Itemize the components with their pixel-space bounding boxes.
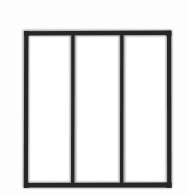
corner-bottom-right bbox=[166, 183, 172, 189]
right-stile-stroke bbox=[167, 31, 171, 188]
bottom-rail-stroke bbox=[24, 183, 172, 188]
corner-bottom-left bbox=[24, 183, 29, 189]
panel-1 bbox=[27, 34, 72, 184]
divider-right-stroke bbox=[120, 34, 124, 185]
divider-left-stroke bbox=[71, 34, 75, 185]
panel-2 bbox=[74, 34, 121, 184]
three-panel-frame-figure bbox=[0, 0, 186, 195]
panel-3 bbox=[123, 34, 168, 184]
top-rail-stroke bbox=[24, 31, 171, 36]
corner-top-left bbox=[24, 31, 29, 36]
panel-group bbox=[27, 34, 168, 184]
drawing-canvas: Three Panel Frame Scanned line drawing o… bbox=[0, 0, 186, 195]
left-stile-stroke bbox=[24, 31, 29, 187]
corner-top-right bbox=[166, 31, 172, 36]
